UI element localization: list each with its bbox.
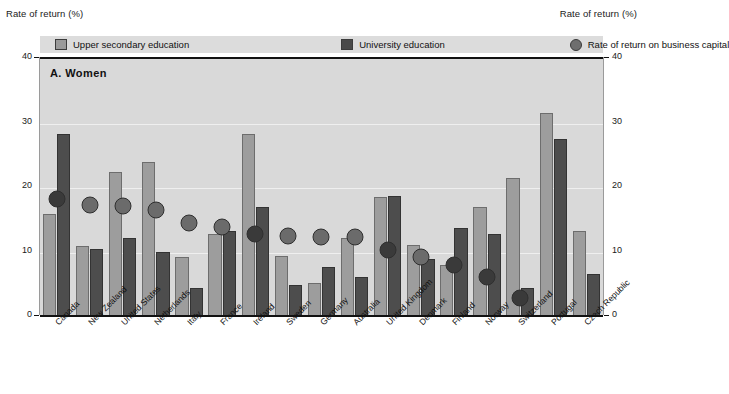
right-axis-line (603, 57, 604, 315)
marker-business-capital (81, 197, 98, 214)
bar-group (73, 59, 106, 317)
bar-university (256, 207, 269, 317)
legend-item-upper-secondary: Upper secondary education (55, 39, 189, 50)
left-tick-label-30: 30 (22, 116, 32, 126)
right-tick-label-40: 40 (612, 51, 622, 61)
bar-upper-secondary (308, 283, 321, 317)
marker-business-capital (181, 214, 198, 231)
right-tick-label-0: 0 (612, 309, 617, 319)
gray-circle-marker-icon (570, 39, 582, 51)
bar-group (106, 59, 139, 317)
light-square-swatch-icon (55, 39, 67, 50)
tick-mark-40 (604, 57, 609, 58)
marker-business-capital (147, 201, 164, 218)
bar-group (570, 59, 603, 317)
left-tick-label-40: 40 (22, 51, 32, 61)
marker-business-capital (247, 225, 264, 242)
legend-label-university: University education (359, 39, 445, 50)
left-axis-caption: Rate of return (%) (6, 8, 83, 19)
bar-group (206, 59, 239, 317)
marker-business-capital (48, 191, 65, 208)
legend-item-university: University education (341, 39, 445, 50)
dark-square-swatch-icon (341, 39, 353, 50)
legend-item-business-capital: Rate of return on business capital (570, 39, 729, 51)
marker-business-capital (346, 229, 363, 246)
left-axis-line (39, 57, 40, 315)
left-tick-label-20: 20 (22, 180, 32, 190)
bar-group (172, 59, 205, 317)
bar-group (338, 59, 371, 317)
bar-group (504, 59, 537, 317)
bar-group (305, 59, 338, 317)
bar-group (40, 59, 73, 317)
marker-business-capital (512, 290, 529, 307)
bar-upper-secondary (43, 214, 56, 317)
bar-group (371, 59, 404, 317)
tick-mark-0 (604, 315, 609, 316)
marker-business-capital (313, 229, 330, 246)
bar-group (139, 59, 172, 317)
right-axis-caption: Rate of return (%) (560, 8, 637, 19)
bar-group (437, 59, 470, 317)
bar-group (239, 59, 272, 317)
left-tick-label-0: 0 (27, 309, 32, 319)
marker-business-capital (114, 198, 131, 215)
tick-mark-40 (34, 57, 39, 58)
bar-university (57, 134, 70, 317)
legend-label-upper-secondary: Upper secondary education (73, 39, 189, 50)
chart-legend: Upper secondary education University edu… (40, 36, 603, 53)
bar-group (537, 59, 570, 317)
legend-label-business-capital: Rate of return on business capital (588, 39, 729, 50)
left-tick-label-10: 10 (22, 245, 32, 255)
bar-group (272, 59, 305, 317)
bar-university (554, 139, 567, 317)
bar-group (471, 59, 504, 317)
bar-upper-secondary (440, 265, 453, 317)
right-tick-label-10: 10 (612, 245, 622, 255)
tick-mark-0 (34, 315, 39, 316)
marker-business-capital (412, 248, 429, 265)
marker-business-capital (280, 227, 297, 244)
plot-area: A. Women (40, 57, 603, 317)
right-tick-label-20: 20 (612, 180, 622, 190)
marker-business-capital (379, 242, 396, 259)
bar-upper-secondary (208, 234, 221, 317)
marker-business-capital (445, 256, 462, 273)
marker-business-capital (479, 269, 496, 286)
plot-inner (40, 59, 603, 317)
bar-group (404, 59, 437, 317)
bar-upper-secondary (473, 207, 486, 317)
marker-business-capital (214, 219, 231, 236)
bar-upper-secondary (540, 113, 553, 317)
right-tick-label-30: 30 (612, 116, 622, 126)
